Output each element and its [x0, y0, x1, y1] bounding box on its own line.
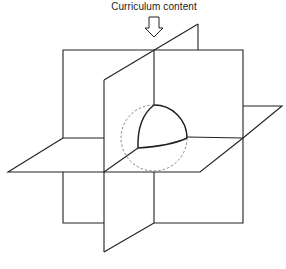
down-arrow-icon: [145, 17, 163, 37]
three-planes-diagram: [0, 0, 286, 269]
octant-segment: [138, 105, 187, 148]
frontal-plane: [63, 50, 243, 223]
sagittal-plane: [104, 24, 198, 252]
